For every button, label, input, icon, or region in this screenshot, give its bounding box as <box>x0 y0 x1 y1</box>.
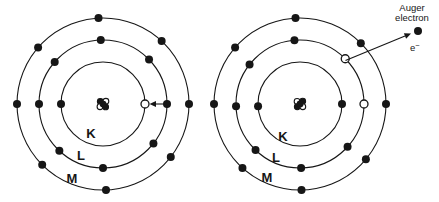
auger-label-line2: electron <box>395 12 429 23</box>
vacancy-l-circle <box>341 55 349 63</box>
shell-label-k-right: K <box>278 129 288 144</box>
electron-l-dot <box>232 102 240 110</box>
electron-l-dot <box>246 61 254 69</box>
atom-before-group <box>13 14 193 194</box>
electron-m-dot <box>357 39 365 47</box>
electron-k-dot <box>57 100 65 108</box>
auger-annotation-group: Auger electron e− <box>395 2 429 53</box>
shell-label-k-left: K <box>86 126 96 141</box>
electron-m-dot <box>298 186 306 194</box>
electron-l-dot <box>35 100 43 108</box>
electron-k-dot <box>254 102 262 110</box>
electron-l-dot <box>55 147 63 155</box>
electron-m-dot <box>210 100 218 108</box>
figure-auger-effect: K L M K L M Auger electron e− <box>0 0 439 202</box>
nucleon-dot <box>297 101 303 107</box>
electron-m-dot <box>38 161 46 169</box>
electron-l-dot <box>344 143 352 151</box>
shell-label-l-right: L <box>272 150 280 165</box>
auger-electron-dot <box>414 27 422 35</box>
electron-m-dot <box>238 164 246 172</box>
electron-l-dot <box>97 36 105 44</box>
electron-m-dot <box>158 37 166 45</box>
electron-m-dot <box>94 14 102 22</box>
shell-label-m-left: M <box>67 171 78 186</box>
electron-m-dot <box>102 186 110 194</box>
electron-m-dot <box>382 100 390 108</box>
electron-l-dot <box>290 36 298 44</box>
electron-l-dot <box>51 58 59 66</box>
vacancy-k-circle <box>141 100 149 108</box>
auger-ejection-arrow <box>346 36 405 61</box>
ejected-electron-symbol: e− <box>410 41 420 54</box>
l-to-k-transition-arrow-head <box>150 101 157 107</box>
electron-m-dot <box>231 44 239 52</box>
electron-l-dot <box>163 100 171 108</box>
electron-m-dot <box>185 100 193 108</box>
electron-l-dot <box>99 164 107 172</box>
atom-after-group <box>210 14 422 194</box>
electron-l-dot <box>149 139 157 147</box>
electron-m-dot <box>167 153 175 161</box>
electron-l-dot <box>252 146 260 154</box>
electron-m-dot <box>362 155 370 163</box>
electron-m-dot <box>13 100 21 108</box>
electron-k-dot <box>338 100 346 108</box>
electron-l-dot <box>297 164 305 172</box>
shell-label-m-right: M <box>262 170 273 185</box>
electron-l-dot <box>145 56 153 64</box>
vacancy-l-circle <box>360 100 368 108</box>
nucleon-dot <box>100 101 106 107</box>
electron-m-dot <box>34 44 42 52</box>
shell-label-l-left: L <box>77 148 85 163</box>
diagram-canvas: K L M K L M Auger electron e− <box>0 0 439 202</box>
electron-m-dot <box>291 14 299 22</box>
